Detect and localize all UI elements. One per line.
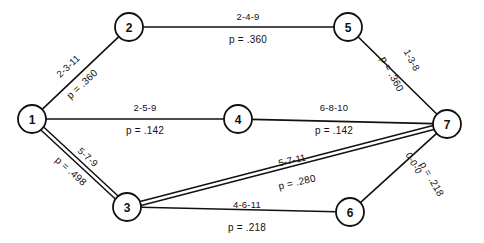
node-2[interactable]: 2 (115, 13, 143, 41)
node-5[interactable]: 5 (334, 13, 362, 41)
node-4[interactable]: 4 (224, 105, 252, 133)
edge-label-5-7: 1-3-8p = .360 (378, 47, 422, 93)
edge-probability: p = .218 (418, 160, 447, 199)
node-label: 4 (235, 113, 242, 127)
node-label: 7 (444, 118, 451, 132)
network-diagram: 1234567 2-3-11p = .3602-4-9p = .3601-3-8… (0, 0, 484, 243)
edge-stroke (42, 37, 119, 110)
edge-label-4-7: 6-8-10p = .142 (315, 102, 353, 136)
node-label: 6 (347, 206, 354, 220)
edge-probability: p = .360 (378, 55, 406, 94)
edge-probability: p = .142 (315, 125, 353, 136)
node-label: 2 (126, 21, 133, 35)
edge-time-estimate: 6-8-10 (320, 102, 349, 113)
edge-4-7 (252, 119, 433, 123)
node-label: 5 (345, 21, 352, 35)
edge-stroke (252, 119, 433, 123)
edge-probability: p = .280 (277, 172, 317, 191)
edge-probability: p = .360 (229, 34, 267, 45)
node-label: 3 (124, 201, 131, 215)
edge-label-6-7: 0-0-0p = .218 (403, 150, 446, 198)
edge-time-estimate: 2-4-9 (236, 11, 259, 22)
node-7[interactable]: 7 (433, 110, 461, 138)
edge-label-3-6: 4-6-11p = .218 (228, 199, 266, 233)
network-diagram-canvas: 1234567 2-3-11p = .3602-4-9p = .3601-3-8… (0, 0, 484, 243)
node-6[interactable]: 6 (336, 198, 364, 226)
edge-1-3 (41, 127, 118, 199)
edge-probability: p = .142 (126, 125, 164, 136)
edge-stroke (41, 130, 115, 199)
node-3[interactable]: 3 (113, 193, 141, 221)
edge-stroke (141, 129, 434, 205)
node-1[interactable]: 1 (18, 105, 46, 133)
edge-time-estimate: 4-6-11 (233, 199, 261, 210)
edge-time-estimate: 2-5-9 (133, 102, 156, 113)
node-label: 1 (29, 113, 36, 127)
edge-label-1-3: 5-7-9p = .498 (53, 145, 100, 188)
edge-1-2 (42, 37, 119, 110)
edge-time-estimate: 1-3-8 (402, 47, 423, 73)
edge-probability: p = .218 (228, 222, 266, 233)
